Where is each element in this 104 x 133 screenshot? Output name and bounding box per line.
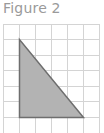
grid-figure <box>0 0 104 133</box>
